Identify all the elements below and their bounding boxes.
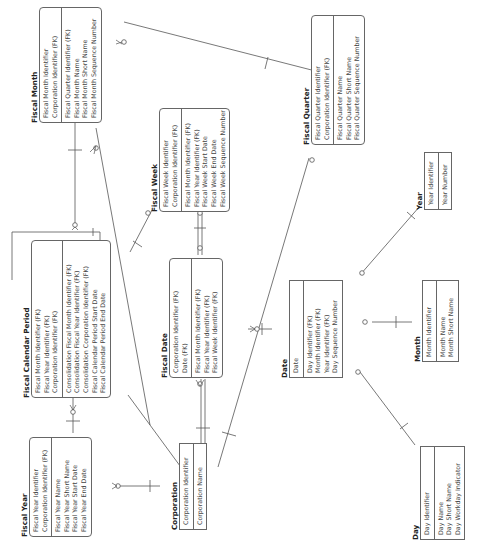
- key-attribute: Corporation Identifier (FK): [51, 11, 60, 118]
- key-attribute: Fiscal Month Identifier: [42, 11, 51, 118]
- entity-title: Date: [280, 280, 289, 378]
- attribute: Day Identifier (FK): [306, 284, 315, 373]
- entity-title: Fiscal Week: [150, 108, 159, 212]
- entity-fiscal-month[interactable]: Fiscal Month Fiscal Month Identifier Cor…: [30, 7, 102, 123]
- entity-title: Month: [413, 280, 422, 362]
- attribute: Month Identifier (FK): [314, 284, 323, 373]
- attribute: Day Sequence Number: [331, 284, 340, 373]
- key-attribute: Corporation Identifier (FK): [41, 441, 50, 532]
- entity-month[interactable]: Month Month Identifier Month Name Month …: [413, 280, 459, 362]
- attribute: Fiscal Quarter Name: [336, 19, 345, 140]
- attribute: Fiscal Month Sequence Number: [90, 11, 99, 118]
- entity-corporation[interactable]: Corporation Corporation Identifier Corpo…: [170, 443, 207, 530]
- attribute: Consolidation Fiscal Month Identifier (F…: [65, 244, 74, 393]
- attribute: Corporation Name: [196, 447, 205, 525]
- entity-title: Fiscal Month: [30, 7, 39, 123]
- attribute: Fiscal Quarter Sequence Number: [353, 19, 362, 140]
- key-attribute: Fiscal Year Identifier: [32, 441, 41, 532]
- attribute: Fiscal Quarter Short Name: [345, 19, 354, 140]
- key-attribute: Fiscal Quarter Identifier: [314, 19, 323, 140]
- entity-title: Fiscal Year: [20, 437, 29, 537]
- entity-title: Fiscal Date: [160, 258, 169, 378]
- entity-fiscal-date[interactable]: Fiscal Date Corporation Identifier (FK) …: [160, 258, 223, 378]
- key-attribute: Date (FK): [181, 262, 190, 373]
- entity-fiscal-week[interactable]: Fiscal Week Fiscal Week Identifier Corpo…: [150, 108, 230, 212]
- attribute: Consolidation Fiscal Year Identifier (FK…: [73, 244, 82, 393]
- entity-fiscal-quarter[interactable]: Fiscal Quarter Fiscal Quarter Identifier…: [302, 15, 365, 145]
- attribute: Day Workday Indicator: [454, 450, 463, 535]
- rel-day-date: [360, 372, 415, 445]
- attribute: Day Short Name: [445, 450, 454, 535]
- attribute: Fiscal Month Short Name: [81, 11, 90, 118]
- attribute: Fiscal Year Name: [54, 441, 63, 532]
- attribute: Month Short Name: [447, 284, 456, 357]
- attribute: Fiscal Quarter Identifier (FK): [64, 11, 73, 118]
- attribute: Fiscal Week Start Date: [201, 112, 210, 207]
- rel-year-date: [360, 206, 420, 275]
- attribute: Consolidation Corporation Identifier (FK…: [82, 244, 91, 393]
- attribute: Fiscal Week Identifier (FK): [211, 262, 220, 373]
- entity-title: Fiscal Quarter: [302, 15, 311, 145]
- entity-year[interactable]: Year Year Identifier Year Number: [415, 152, 452, 210]
- key-attribute: Corporation Identifier (FK): [51, 244, 60, 393]
- attribute: Fiscal Month Name: [73, 11, 82, 118]
- entity-fiscal-calendar-period[interactable]: Fiscal Calendar Period Fiscal Month Iden…: [22, 240, 111, 398]
- key-attribute: Day Identifier: [423, 450, 432, 535]
- key-attribute: Corporation Identifier (FK): [172, 262, 181, 373]
- key-attribute: Corporation Identifier (FK): [323, 19, 332, 140]
- entity-title: Year: [415, 152, 424, 210]
- attribute: Fiscal Year Identifier (FK): [193, 112, 202, 207]
- attribute: Fiscal Month Identifier (FK): [194, 262, 203, 373]
- key-attribute: Fiscal Year Identifier (FK): [43, 244, 52, 393]
- attribute: Fiscal Week Sequence Number: [219, 112, 228, 207]
- attribute: Year Number: [441, 156, 450, 205]
- attribute: Fiscal Year End Date: [80, 441, 89, 532]
- attribute: Month Name: [439, 284, 448, 357]
- entity-date[interactable]: Date Date Day Identifier (FK) Month Iden…: [280, 280, 343, 378]
- key-attribute: Year Identifier: [427, 156, 436, 205]
- attribute: Fiscal Calendar Period Start Date: [91, 244, 100, 393]
- attribute: Fiscal Month Identifier (FK): [184, 112, 193, 207]
- key-attribute: Corporation Identifier (FK): [171, 112, 180, 207]
- attribute: Fiscal Week End Date: [210, 112, 219, 207]
- key-attribute: Fiscal Month Identifier (FK): [34, 244, 43, 393]
- entity-fiscal-year[interactable]: Fiscal Year Fiscal Year Identifier Corpo…: [20, 437, 92, 537]
- attribute: Day Name: [437, 450, 446, 535]
- rel-week-calendar: [130, 210, 152, 252]
- attribute: Fiscal Calendar Period End Date: [99, 244, 108, 393]
- key-attribute: Corporation Identifier: [182, 447, 191, 525]
- attribute: Fiscal Year Identifier (FK): [203, 262, 212, 373]
- key-attribute: Fiscal Week Identifier: [162, 112, 171, 207]
- attribute: Fiscal Year Start Date: [71, 441, 80, 532]
- key-attribute: Date: [292, 284, 301, 373]
- attribute: Year Identifier (FK): [323, 284, 332, 373]
- key-attribute: Month Identifier: [425, 284, 434, 357]
- entity-title: Fiscal Calendar Period: [22, 240, 31, 398]
- entity-title: Day: [411, 446, 420, 540]
- entity-title: Corporation: [170, 443, 179, 530]
- attribute: Fiscal Year Short Name: [63, 441, 72, 532]
- entity-day[interactable]: Day Day Identifier Day Name Day Short Na…: [411, 446, 465, 540]
